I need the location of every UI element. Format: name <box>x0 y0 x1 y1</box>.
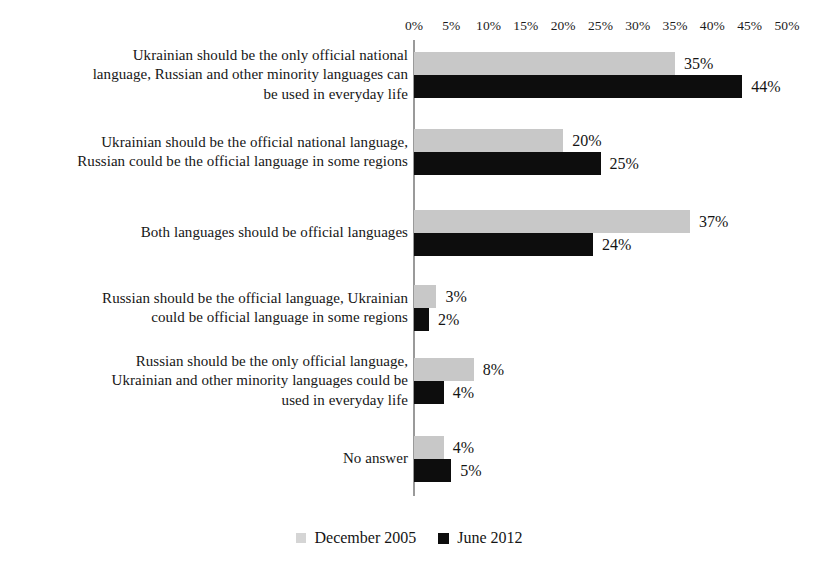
x-axis-tick-label: 15% <box>513 16 538 36</box>
bar <box>414 358 474 381</box>
bar-value-label: 3% <box>445 289 466 305</box>
bar-value-label: 8% <box>483 362 504 378</box>
category-label-line: Russian should be the only official lang… <box>8 352 408 372</box>
x-axis-tick-label: 45% <box>737 16 762 36</box>
bar <box>414 285 436 308</box>
x-axis-tick-label: 5% <box>442 16 460 36</box>
x-axis-tick-label: 50% <box>774 16 799 36</box>
category-label-line: used in everyday life <box>8 391 408 411</box>
x-axis-tick-label: 30% <box>625 16 650 36</box>
chart-legend: December 2005June 2012 <box>0 524 819 552</box>
bar-value-label: 4% <box>453 385 474 401</box>
x-axis-tick-label: 0% <box>405 16 423 36</box>
plot-area: 35%44%20%25%37%24%3%2%8%4%4%5% <box>414 40 804 496</box>
bar <box>414 436 444 459</box>
x-axis-tick-label: 20% <box>551 16 576 36</box>
bar <box>414 152 601 175</box>
bar-value-label: 24% <box>602 237 631 253</box>
x-axis-tick-label: 35% <box>663 16 688 36</box>
category-labels: Ukrainian should be the only official na… <box>0 40 408 496</box>
bar-value-label: 25% <box>610 156 639 172</box>
bar-value-label: 5% <box>460 463 481 479</box>
x-axis-tick-label: 10% <box>476 16 501 36</box>
bar <box>414 129 563 152</box>
bar <box>414 75 742 98</box>
category-label: No answer <box>8 449 408 469</box>
bar <box>414 381 444 404</box>
category-label-line: Russian could be the official language i… <box>8 152 408 172</box>
y-axis-line <box>413 40 415 496</box>
category-label: Russian should be the only official lang… <box>8 352 408 411</box>
x-axis-tick-labels: 0%5%10%15%20%25%30%35%40%45%50% <box>0 16 819 36</box>
bar-value-label: 4% <box>453 440 474 456</box>
category-label-line: Both languages should be official langua… <box>8 223 408 243</box>
bar-value-label: 35% <box>684 56 713 72</box>
category-label: Russian should be the official language,… <box>8 289 408 328</box>
legend-item[interactable]: December 2005 <box>296 530 416 546</box>
legend-label: December 2005 <box>314 530 416 546</box>
category-label: Ukrainian should be the official nationa… <box>8 133 408 172</box>
bar <box>414 52 675 75</box>
legend-swatch-icon <box>296 533 306 543</box>
category-label-line: be used in everyday life <box>8 85 408 105</box>
bar <box>414 233 593 256</box>
bar <box>414 459 451 482</box>
legend-item[interactable]: June 2012 <box>438 530 522 546</box>
bar-value-label: 44% <box>751 79 780 95</box>
category-label-line: Russian should be the official language,… <box>8 289 408 309</box>
category-label: Ukrainian should be the only official na… <box>8 46 408 105</box>
bar-value-label: 2% <box>438 312 459 328</box>
category-label-line: Ukrainian should be the only official na… <box>8 46 408 66</box>
bar-value-label: 37% <box>699 214 728 230</box>
category-label-line: language, Russian and other minority lan… <box>8 65 408 85</box>
category-label-line: No answer <box>8 449 408 469</box>
bar-chart: 0%5%10%15%20%25%30%35%40%45%50% Ukrainia… <box>0 0 819 561</box>
category-label-line: Ukrainian and other minority languages c… <box>8 371 408 391</box>
legend-label: June 2012 <box>457 530 522 546</box>
category-label-line: Ukrainian should be the official nationa… <box>8 133 408 153</box>
x-axis-tick-label: 25% <box>588 16 613 36</box>
bar-value-label: 20% <box>572 133 601 149</box>
legend-swatch-icon <box>438 533 449 544</box>
category-label: Both languages should be official langua… <box>8 223 408 243</box>
x-axis-tick-label: 40% <box>700 16 725 36</box>
category-label-line: could be official language in some regio… <box>8 308 408 328</box>
bar <box>414 210 690 233</box>
bar <box>414 308 429 331</box>
